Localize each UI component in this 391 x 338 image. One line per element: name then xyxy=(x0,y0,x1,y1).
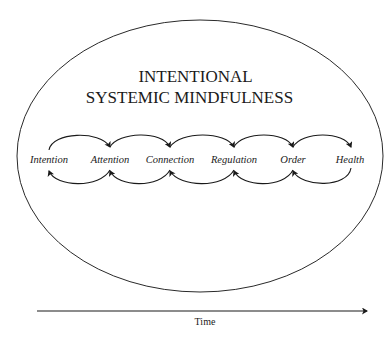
backward-arrow-order-regulation xyxy=(234,170,293,184)
forward-arrow-connection-regulation xyxy=(170,135,234,147)
stage-connection: Connection xyxy=(146,153,194,166)
backward-arrow-health-order xyxy=(293,168,351,183)
time-axis-label: Time xyxy=(195,316,216,328)
backward-arrow-attention-intention xyxy=(49,170,110,184)
forward-arrow-order-health xyxy=(293,135,351,147)
stage-order: Order xyxy=(280,153,305,166)
backward-arrow-connection-attention xyxy=(110,170,170,184)
stage-attention: Attention xyxy=(91,153,130,166)
stage-health: Health xyxy=(336,153,365,166)
backward-arrow-regulation-connection xyxy=(170,170,234,184)
enclosing-ellipse xyxy=(17,20,383,292)
stage-intention: Intention xyxy=(30,153,68,166)
forward-arrows xyxy=(49,135,351,150)
diagram-title-line2: SYSTEMIC MINDFULNESS xyxy=(0,88,385,108)
forward-arrow-regulation-order xyxy=(234,135,293,147)
backward-arrows xyxy=(49,168,351,184)
diagram-title-line1: INTENTIONAL xyxy=(0,67,391,87)
forward-arrow-attention-connection xyxy=(110,135,170,147)
stage-regulation: Regulation xyxy=(211,153,257,166)
diagram-canvas xyxy=(0,0,391,338)
forward-arrow-intention-attention xyxy=(49,135,110,150)
